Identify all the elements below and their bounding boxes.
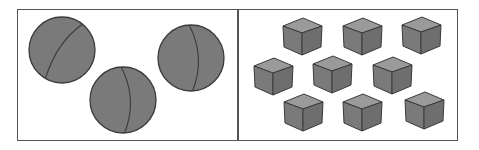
cube-6 bbox=[371, 56, 415, 96]
cube-3 bbox=[400, 16, 444, 56]
ball-1 bbox=[27, 15, 97, 85]
ball-3 bbox=[156, 23, 226, 93]
cube-5 bbox=[311, 55, 355, 95]
cube-7 bbox=[282, 93, 326, 133]
cube-1 bbox=[281, 17, 325, 57]
cube-9 bbox=[403, 91, 447, 131]
ball-2 bbox=[88, 65, 158, 135]
cube-2 bbox=[341, 17, 385, 57]
cube-8 bbox=[341, 93, 385, 133]
cube-4 bbox=[252, 57, 296, 97]
